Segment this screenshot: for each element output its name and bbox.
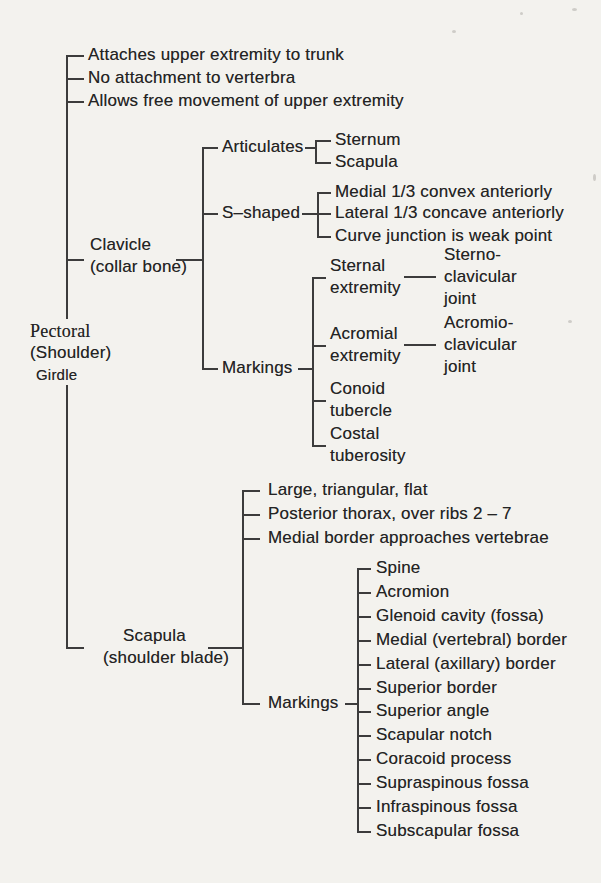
- costal-line-1: Costal: [330, 423, 406, 445]
- root-line-1: Pectoral: [30, 320, 111, 342]
- node-scapula-articulation: Scapula: [335, 152, 398, 172]
- tick-line: [66, 78, 84, 80]
- trunk-line-upper: [66, 55, 68, 319]
- tick-line: [312, 345, 326, 347]
- acromial-line-2: extremity: [330, 345, 401, 367]
- connector-line: [302, 213, 317, 215]
- node-scapula-markings: Markings: [268, 693, 339, 713]
- node-clavicle: Clavicle (collar bone): [90, 234, 187, 278]
- connector-line: [176, 259, 202, 261]
- bracket-line: [202, 147, 204, 370]
- sterno-joint-line-1: Sterno-: [444, 244, 517, 266]
- root-line-2: (Shoulder): [30, 342, 111, 364]
- scan-speck: [568, 320, 572, 323]
- sternal-line-1: Sternal: [330, 255, 401, 277]
- node-sternum: Sternum: [335, 130, 401, 150]
- tick-line: [242, 538, 260, 540]
- tick-line: [242, 514, 260, 516]
- conoid-line-1: Conoid: [330, 378, 392, 400]
- tick-line: [242, 703, 260, 705]
- tick-line: [202, 368, 218, 370]
- tick-line: [312, 277, 326, 279]
- tick-line: [66, 55, 84, 57]
- acromio-joint-line-1: Acromio-: [444, 312, 517, 334]
- tick-line: [357, 831, 371, 833]
- node-acromial-extremity: Acromial extremity: [330, 323, 401, 367]
- connector-line: [404, 344, 436, 346]
- root-line-3: Girdle: [30, 364, 111, 386]
- tick-line: [357, 759, 371, 761]
- clavicle-subtitle: (collar bone): [90, 256, 187, 278]
- tick-line: [317, 236, 331, 238]
- tick-line: [357, 688, 371, 690]
- node-sternal-extremity: Sternal extremity: [330, 255, 401, 299]
- node-coracoid-process: Coracoid process: [376, 749, 511, 769]
- acromio-joint-line-3: joint: [444, 356, 517, 378]
- tick-line: [202, 147, 218, 149]
- connector-line: [345, 703, 357, 705]
- connector-line: [305, 147, 315, 149]
- pectoral-girdle-tree-diagram: Pectoral (Shoulder) Girdle Attaches uppe…: [0, 0, 601, 883]
- tick-line: [357, 592, 371, 594]
- clavicle-name: Clavicle: [90, 234, 187, 256]
- connector-line: [404, 276, 436, 278]
- node-scapular-notch: Scapular notch: [376, 725, 492, 745]
- costal-line-2: tuberosity: [330, 445, 406, 467]
- scan-speck: [593, 174, 596, 181]
- tick-line: [202, 213, 218, 215]
- node-medial-vertebral-border: Medial (vertebral) border: [376, 630, 567, 650]
- node-no-attachment-vertebra: No attachment to verterbra: [88, 68, 295, 88]
- scapula-name: Scapula: [103, 625, 229, 647]
- tick-line: [66, 101, 84, 103]
- tick-line: [312, 445, 326, 447]
- bracket-line: [242, 490, 244, 705]
- node-infraspinous-fossa: Infraspinous fossa: [376, 797, 518, 817]
- scan-speck: [520, 12, 523, 15]
- conoid-line-2: tubercle: [330, 400, 392, 422]
- tick-line: [357, 616, 371, 618]
- node-costal-tuberosity: Costal tuberosity: [330, 423, 406, 467]
- node-free-movement: Allows free movement of upper extremity: [88, 91, 404, 111]
- trunk-line-lower: [66, 385, 68, 647]
- node-s-shaped: S–shaped: [222, 203, 300, 223]
- tick-line: [357, 807, 371, 809]
- sternal-line-2: extremity: [330, 277, 401, 299]
- node-superior-angle: Superior angle: [376, 701, 489, 721]
- scan-speck: [452, 30, 456, 33]
- bracket-line: [315, 140, 317, 164]
- node-subscapular-fossa: Subscapular fossa: [376, 821, 519, 841]
- tick-line: [66, 259, 84, 261]
- root-label-pectoral-girdle: Pectoral (Shoulder) Girdle: [30, 320, 111, 386]
- node-superior-border: Superior border: [376, 678, 497, 698]
- tick-line: [357, 735, 371, 737]
- node-supraspinous-fossa: Supraspinous fossa: [376, 773, 529, 793]
- node-conoid-tubercle: Conoid tubercle: [330, 378, 392, 422]
- tick-line: [315, 162, 331, 164]
- node-attaches-upper-extremity: Attaches upper extremity to trunk: [88, 45, 344, 65]
- node-glenoid-cavity: Glenoid cavity (fossa): [376, 606, 544, 626]
- node-articulates: Articulates: [222, 137, 304, 157]
- node-lateral-axillary-border: Lateral (axillary) border: [376, 654, 556, 674]
- node-large-triangular-flat: Large, triangular, flat: [268, 480, 428, 500]
- node-clavicle-markings: Markings: [222, 358, 293, 378]
- node-sternoclavicular-joint: Sterno- clavicular joint: [444, 244, 517, 310]
- sterno-joint-line-3: joint: [444, 288, 517, 310]
- bracket-line: [317, 192, 319, 238]
- bracket-line: [357, 568, 359, 833]
- acromial-line-1: Acromial: [330, 323, 401, 345]
- node-lateral-third-concave: Lateral 1/3 concave anteriorly: [335, 203, 564, 223]
- tick-line: [312, 400, 326, 402]
- node-curve-junction: Curve junction is weak point: [335, 226, 552, 246]
- node-acromioclavicular-joint: Acromio- clavicular joint: [444, 312, 517, 378]
- tick-line: [357, 568, 371, 570]
- connector-line: [298, 368, 312, 370]
- node-spine: Spine: [376, 558, 420, 578]
- acromio-joint-line-2: clavicular: [444, 334, 517, 356]
- tick-line: [315, 140, 331, 142]
- bracket-line: [312, 277, 314, 447]
- scan-speck: [572, 8, 577, 11]
- tick-line: [357, 711, 371, 713]
- tick-line: [317, 192, 331, 194]
- node-medial-border-vertebrae: Medial border approaches vertebrae: [268, 528, 549, 548]
- tick-line: [66, 647, 84, 649]
